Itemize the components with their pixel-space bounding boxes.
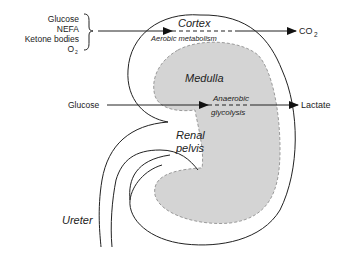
input-glucose-label: Glucose (48, 14, 79, 24)
glycolysis-label: glycolysis (211, 108, 245, 117)
co2-label: CO (299, 26, 313, 36)
medulla-label: Medulla (185, 72, 224, 84)
input-o2-subscript: 2 (75, 49, 78, 55)
input-o2-label: O (67, 44, 74, 54)
input-bracket (84, 14, 93, 50)
aerobic-metabolism-label: Aerobic metabolism (150, 34, 217, 43)
kidney-metabolism-diagram: Glucose NEFA Ketone bodies O 2 Cortex Ae… (0, 0, 349, 259)
anaerobic-label: Anaerobic (212, 94, 249, 103)
pelvis-label: pelvis (175, 142, 205, 154)
input-ketone-label: Ketone bodies (25, 34, 79, 44)
medulla-shape (154, 42, 280, 223)
input-nefa-label: NEFA (57, 24, 80, 34)
renal-label: Renal (176, 129, 205, 141)
cortex-label: Cortex (178, 17, 211, 29)
lactate-label: Lactate (301, 100, 331, 110)
ureter-label: Ureter (62, 214, 94, 226)
co2-subscript: 2 (314, 31, 318, 38)
glucose-middle-label: Glucose (68, 100, 99, 110)
